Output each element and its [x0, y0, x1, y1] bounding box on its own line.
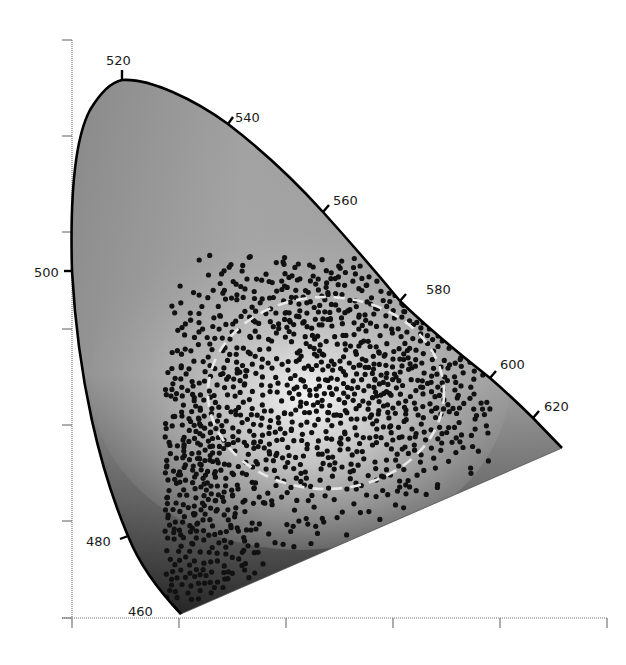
scatter-point — [315, 445, 320, 450]
scatter-point — [384, 389, 389, 394]
scatter-point — [412, 401, 417, 406]
scatter-point — [203, 573, 208, 578]
scatter-point — [259, 364, 264, 369]
scatter-point — [486, 458, 491, 463]
scatter-point — [366, 473, 371, 478]
scatter-point — [291, 438, 296, 443]
scatter-point — [403, 411, 408, 416]
scatter-point — [457, 405, 462, 410]
scatter-point — [227, 352, 232, 357]
scatter-point — [284, 325, 289, 330]
scatter-point — [274, 330, 279, 335]
scatter-point — [222, 489, 227, 494]
scatter-point — [418, 325, 423, 330]
scatter-point — [200, 501, 205, 506]
scatter-point — [303, 469, 308, 474]
scatter-point — [234, 282, 239, 287]
scatter-point — [239, 314, 244, 319]
scatter-point — [268, 383, 273, 388]
scatter-point — [406, 367, 411, 372]
scatter-point — [348, 469, 353, 474]
scatter-point — [292, 373, 297, 378]
scatter-point — [262, 501, 267, 506]
scatter-point — [421, 351, 426, 356]
scatter-point — [199, 304, 204, 309]
scatter-point — [258, 423, 263, 428]
scatter-point — [192, 335, 197, 340]
scatter-point — [282, 317, 287, 322]
scatter-point — [319, 359, 324, 364]
scatter-point — [332, 467, 337, 472]
scatter-point — [383, 352, 388, 357]
scatter-point — [339, 315, 344, 320]
scatter-point — [208, 559, 213, 564]
scatter-point — [202, 458, 207, 463]
scatter-point — [230, 321, 235, 326]
scatter-point — [244, 527, 249, 532]
scatter-point — [327, 403, 332, 408]
scatter-point — [185, 590, 190, 595]
scatter-point — [343, 372, 348, 377]
scatter-point — [216, 540, 221, 545]
scatter-point — [177, 492, 182, 497]
scatter-point — [384, 304, 389, 309]
scatter-point — [445, 402, 450, 407]
scatter-point — [197, 461, 202, 466]
scatter-point — [307, 393, 312, 398]
scatter-point — [252, 550, 257, 555]
scatter-point — [325, 290, 330, 295]
scatter-point — [296, 314, 301, 319]
scatter-point — [360, 449, 365, 454]
spectral-locus-fill — [60, 60, 580, 630]
scatter-point — [332, 497, 337, 502]
scatter-point — [165, 535, 170, 540]
scatter-point — [321, 519, 326, 524]
scatter-point — [223, 322, 228, 327]
scatter-point — [211, 315, 216, 320]
scatter-point — [188, 583, 193, 588]
wavelength-label-480: 480 — [86, 534, 111, 549]
scatter-point — [430, 357, 435, 362]
scatter-point — [343, 333, 348, 338]
scatter-point — [170, 350, 175, 355]
scatter-point — [307, 410, 312, 415]
scatter-point — [377, 381, 382, 386]
scatter-point — [253, 459, 258, 464]
scatter-point — [220, 585, 225, 590]
scatter-point — [183, 347, 188, 352]
scatter-point — [241, 400, 246, 405]
scatter-point — [257, 521, 262, 526]
scatter-point — [180, 422, 185, 427]
scatter-point — [437, 425, 442, 430]
scatter-point — [324, 339, 329, 344]
scatter-point — [246, 452, 251, 457]
scatter-point — [419, 360, 424, 365]
scatter-point — [259, 416, 264, 421]
scatter-point — [354, 406, 359, 411]
scatter-point — [187, 562, 192, 567]
scatter-point — [341, 391, 346, 396]
scatter-point — [250, 406, 255, 411]
wavelength-label-580: 580 — [426, 282, 451, 297]
scatter-point — [296, 302, 301, 307]
scatter-point — [212, 336, 217, 341]
scatter-point — [422, 430, 427, 435]
scatter-point — [201, 537, 206, 542]
scatter-point — [389, 327, 394, 332]
scatter-point — [167, 588, 172, 593]
scatter-point — [364, 283, 369, 288]
scatter-point — [363, 358, 368, 363]
scatter-point — [213, 498, 218, 503]
scatter-point — [215, 580, 220, 585]
scatter-point — [344, 532, 349, 537]
scatter-point — [377, 351, 382, 356]
scatter-point — [280, 362, 285, 367]
scatter-point — [179, 352, 184, 357]
scatter-point — [459, 432, 464, 437]
scatter-point — [395, 452, 400, 457]
scatter-point — [460, 445, 465, 450]
scatter-point — [316, 377, 321, 382]
scatter-point — [213, 469, 218, 474]
scatter-point — [437, 393, 442, 398]
scatter-point — [223, 551, 228, 556]
